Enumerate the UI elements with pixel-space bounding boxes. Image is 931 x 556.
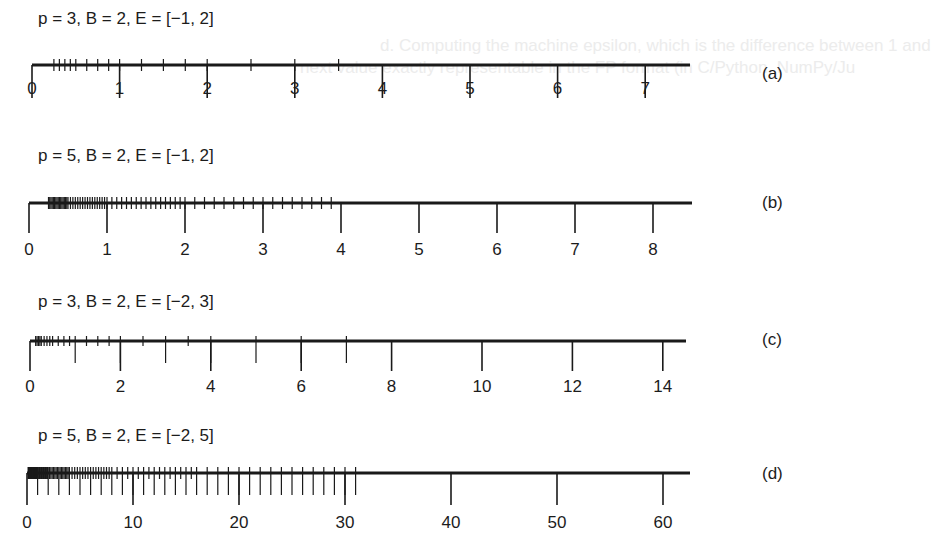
tick-label: 1 [115,79,124,99]
tick-label: 60 [654,513,673,533]
tick-label: 50 [548,513,567,533]
tick-label: 14 [653,377,672,397]
tick-label: 20 [230,513,249,533]
tick-label: 40 [442,513,461,533]
tick-label: 0 [25,377,34,397]
tick-label: 8 [648,240,657,260]
tick-label: 6 [553,79,562,99]
tick-label: 0 [22,513,31,533]
panel-d-title: p = 5, B = 2, E = [−2, 5] [38,426,214,446]
tick-label: 2 [180,240,189,260]
tick-label: 0 [27,79,36,99]
panel-a-title: p = 3, B = 2, E = [−1, 2] [38,9,214,29]
tick-label: 10 [473,377,492,397]
tick-label: 7 [570,240,579,260]
number-line-d [27,467,690,505]
tick-label: 1 [102,240,111,260]
tick-label: 3 [290,79,299,99]
tick-label: 5 [414,240,423,260]
tick-label: 8 [387,377,396,397]
tick-label: 4 [378,79,387,99]
panel-d-tag: (d) [762,464,783,484]
tick-label: 6 [296,377,305,397]
tick-label: 30 [336,513,355,533]
tick-label: 5 [465,79,474,99]
tick-label: 4 [206,377,215,397]
tick-label: 2 [202,79,211,99]
panel-a-tag: (a) [762,64,783,84]
tick-label: 10 [124,513,143,533]
panel-b-tag: (b) [762,193,783,213]
panel-c-title: p = 3, B = 2, E = [−2, 3] [38,292,214,312]
panel-b-title: p = 5, B = 2, E = [−1, 2] [38,146,214,166]
tick-label: 3 [258,240,267,260]
tick-label: 4 [336,240,345,260]
tick-label: 2 [116,377,125,397]
tick-label: 6 [492,240,501,260]
tick-label: 0 [24,240,33,260]
tick-label: 7 [640,79,649,99]
tick-label: 12 [563,377,582,397]
number-line-c [30,336,686,371]
number-line-b [29,197,692,233]
number-line-a [32,59,690,98]
panel-c-tag: (c) [762,330,782,350]
